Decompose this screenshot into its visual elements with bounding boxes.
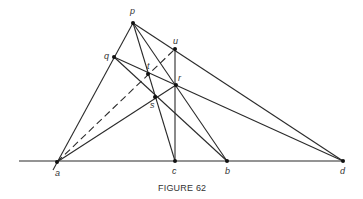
label-q: q bbox=[104, 51, 109, 61]
line-a-r bbox=[57, 85, 176, 162]
label-p: p bbox=[129, 6, 135, 16]
point-b bbox=[225, 159, 229, 163]
point-t bbox=[146, 72, 150, 76]
label-u: u bbox=[173, 36, 178, 46]
point-p bbox=[131, 21, 135, 25]
point-r bbox=[174, 83, 178, 87]
line-a-p bbox=[53, 23, 133, 170]
point-s bbox=[153, 95, 157, 99]
line-p-c bbox=[133, 23, 175, 161]
label-d: d bbox=[340, 166, 346, 176]
point-d bbox=[341, 159, 345, 163]
label-c: c bbox=[172, 166, 177, 176]
geometry-figure: p q u t r s a c b d FIGURE 62 bbox=[0, 0, 363, 199]
label-b: b bbox=[225, 166, 230, 176]
point-q bbox=[112, 55, 116, 59]
line-p-b bbox=[133, 23, 227, 161]
figure-caption: FIGURE 62 bbox=[158, 183, 206, 193]
point-c bbox=[173, 159, 177, 163]
label-r: r bbox=[178, 73, 182, 83]
label-s: s bbox=[150, 100, 155, 110]
label-a: a bbox=[55, 168, 60, 178]
line-a-u-dashed bbox=[57, 49, 175, 162]
label-t: t bbox=[147, 61, 150, 71]
point-u bbox=[173, 47, 177, 51]
point-a bbox=[55, 160, 59, 164]
